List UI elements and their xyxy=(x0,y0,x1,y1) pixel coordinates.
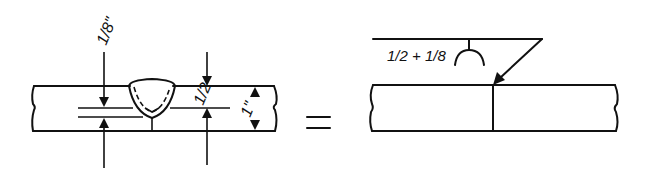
symbol-size-label: 1/2 + 1/8 xyxy=(387,47,446,64)
thickness-dimension: 1" xyxy=(237,87,260,130)
root-opening-label: 1/8" xyxy=(93,14,120,47)
weld-symbol: 1/2 + 1/8 xyxy=(373,39,542,85)
weld-diagram: 1/8" 1/2 1" 1/2 + 1/8 xyxy=(0,0,647,188)
arrow-leader xyxy=(500,39,542,78)
weld-bead xyxy=(129,79,175,118)
right-plate xyxy=(370,85,617,131)
root-opening-dimension: 1/8" xyxy=(93,14,120,168)
thickness-label: 1" xyxy=(237,98,259,119)
u-groove-symbol xyxy=(455,50,484,65)
equals-sign xyxy=(307,117,330,128)
groove-depth-label: 1/2 xyxy=(190,80,214,107)
